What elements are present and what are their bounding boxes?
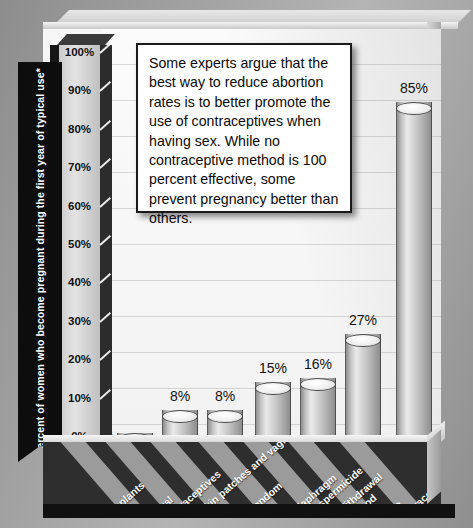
bar-value-label: 8% [215, 388, 235, 404]
y-axis-tick-label: 80% [59, 122, 100, 136]
y-axis-top-face [57, 34, 115, 45]
x-axis-side-face [427, 429, 441, 504]
y-axis-tick-label: 30% [59, 314, 100, 328]
bar-cylinder-top [300, 378, 336, 391]
y-axis-tick-label: 20% [59, 352, 100, 366]
x-axis-base-shadow [43, 504, 455, 518]
bar: 16% [300, 378, 336, 442]
bar: 27% [345, 334, 381, 442]
bar-cylinder-body [396, 102, 432, 442]
bar-value-label: 15% [259, 360, 287, 376]
bar: 15% [255, 382, 291, 442]
bar-cylinder-top [396, 102, 432, 115]
bar-cylinder-top [255, 382, 291, 395]
y-axis-tick-label: 70% [59, 160, 100, 174]
bar-cylinder-top [162, 410, 198, 423]
bar-value-label: 85% [400, 80, 428, 96]
callout-textbox: Some experts argue that the best way to … [136, 43, 352, 213]
y-axis-right-face [100, 45, 112, 445]
bar-value-label: 27% [349, 312, 377, 328]
y-axis-tick-label: 60% [59, 199, 100, 213]
callout-text: Some experts argue that the best way to … [149, 54, 339, 229]
y-axis-tick-label: 90% [59, 83, 100, 97]
chart-frame: 0.5%8%8%15%16%27%85% 100%90%80%70%60%50%… [18, 10, 458, 518]
y-axis-tick-label: 100% [59, 45, 100, 59]
y-axis-title-banner: Percent of women who become pregnant dur… [18, 62, 62, 462]
frame-top-edge [43, 22, 458, 29]
bar-value-label: 8% [170, 388, 190, 404]
bar-cylinder-body [345, 334, 381, 442]
bar-cylinder-top [207, 410, 243, 423]
y-axis-tick-label: 50% [59, 237, 100, 251]
y-axis-tick-label: 40% [59, 275, 100, 289]
y-axis-tick-label: 10% [59, 391, 100, 405]
bar: 85% [396, 102, 432, 442]
bar-value-label: 16% [304, 356, 332, 372]
y-axis-title: Percent of women who become pregnant dur… [18, 62, 62, 462]
bar-cylinder-top [345, 334, 381, 347]
